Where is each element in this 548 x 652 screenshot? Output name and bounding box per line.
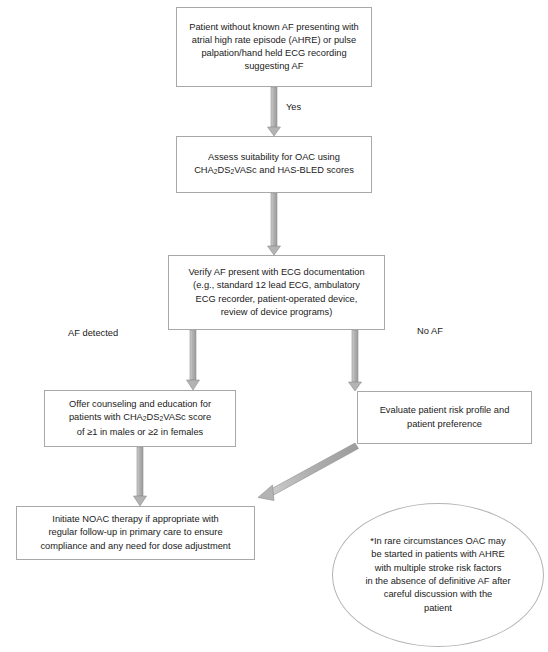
node-verify: Verify AF present with ECG documentation… [168, 255, 385, 330]
node-start: Patient without known AF presenting with… [176, 7, 372, 87]
node-counseling: Offer counseling and education forpatien… [44, 390, 236, 447]
edge-label-no-af: No AF [417, 326, 443, 336]
node-assess: Assess suitability for OAC usingCHA2DS2V… [176, 136, 372, 193]
arrow-evaluate-to-initiate [258, 443, 359, 501]
arrow-start-to-assess [268, 87, 281, 136]
arrow-verify-to-counseling [187, 330, 200, 390]
node-evaluate-text: Evaluate patient risk profile andpatient… [363, 404, 526, 430]
arrow-verify-to-evaluate [349, 330, 362, 391]
arrow-counseling-to-initiate [134, 447, 147, 506]
node-footnote-text: *In rare circumstances OAC maybe started… [349, 535, 527, 615]
edge-label-af-detected: AF detected [68, 328, 118, 338]
node-evaluate: Evaluate patient risk profile andpatient… [357, 391, 532, 444]
node-initiate: Initiate NOAC therapy if appropriate wit… [16, 506, 255, 560]
edge-label-yes: Yes [286, 102, 301, 112]
node-initiate-text: Initiate NOAC therapy if appropriate wit… [22, 513, 249, 553]
flowchart-canvas: Patient without known AF presenting with… [0, 0, 548, 652]
node-counseling-text: Offer counseling and education forpatien… [50, 398, 230, 439]
arrow-assess-to-verify [268, 193, 281, 255]
node-footnote: *In rare circumstances OAC maybe started… [332, 503, 544, 647]
node-start-text: Patient without known AF presenting with… [182, 21, 366, 74]
node-verify-text: Verify AF present with ECG documentation… [174, 266, 379, 319]
node-assess-text: Assess suitability for OAC usingCHA2DS2V… [182, 151, 366, 179]
